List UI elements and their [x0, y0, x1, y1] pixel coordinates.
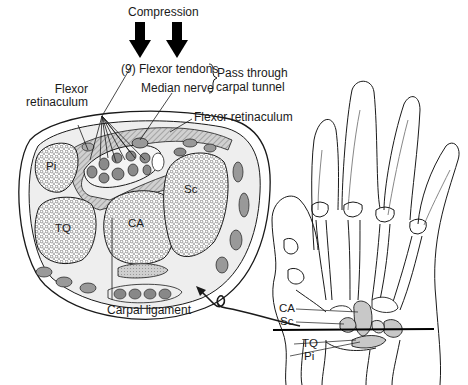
section-line [273, 329, 434, 330]
cross-section-sc-label: Sc [184, 183, 197, 196]
carpal-bones-highlight [330, 297, 402, 348]
flexor-retinaculum-right-label: Flexor retinaculum [194, 111, 293, 124]
cross-section-pi-label: Pi [46, 160, 56, 173]
carpal-ligament-label: Carpal ligament [107, 304, 191, 317]
cross-section-ca-label: CA [128, 217, 144, 230]
hand-ca-label: CA [279, 302, 295, 315]
wrist-cross-section [19, 111, 270, 319]
carpal-tunnel-diagram [0, 0, 468, 385]
compression-arrow-right-icon [166, 22, 188, 58]
compression-label: Compression [128, 6, 199, 19]
pass-through-label-line1: Pass through [217, 67, 288, 80]
hand-tq-label: TQ [302, 337, 318, 350]
hand-pi-label: Pi [304, 350, 314, 363]
flexor-tendons-label: (9) Flexor tendons [121, 63, 218, 76]
pass-through-label-line2: carpal tunnel [216, 81, 285, 94]
compression-arrow-left-icon [129, 22, 151, 58]
median-nerve-label: Median nerve [141, 82, 214, 95]
hand-sc-label: Sc [280, 315, 293, 328]
cross-section-tq-label: TQ [55, 222, 71, 235]
flexor-retinaculum-left-line2: retinaculum [20, 96, 88, 109]
